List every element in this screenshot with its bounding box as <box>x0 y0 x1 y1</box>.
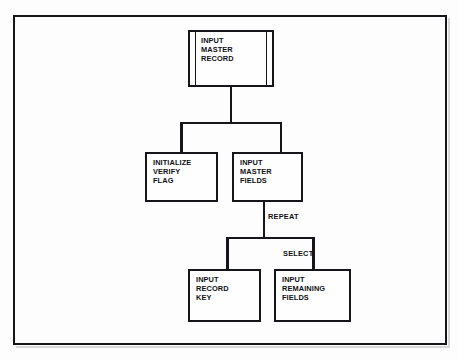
node-input-master-record[interactable]: INPUT MASTER RECORD <box>188 30 274 87</box>
node-input-master-fields[interactable]: INPUT MASTER FIELDS <box>232 152 303 202</box>
connector-root-stem <box>230 87 233 123</box>
diagram-page: REPEAT SELECT INPUT MASTER RECORD INITIA… <box>0 0 459 360</box>
node-inner-rule-left-icon <box>195 32 196 85</box>
edge-label-select: SELECT <box>283 249 313 258</box>
node-input-remaining-fields[interactable]: INPUT REMAINING FIELDS <box>274 269 351 322</box>
connector-to-initialize-verify-flag <box>180 122 183 153</box>
node-label-input-record-key: INPUT RECORD KEY <box>196 275 229 303</box>
node-label-input-remaining-fields: INPUT REMAINING FIELDS <box>282 275 325 303</box>
node-input-record-key[interactable]: INPUT RECORD KEY <box>188 269 261 322</box>
connector-repeat-stem <box>263 202 266 238</box>
connector-level2-bus <box>180 122 282 125</box>
node-inner-rule-right-icon <box>266 32 267 85</box>
connector-to-input-record-key <box>226 237 229 270</box>
node-label-input-master-record: INPUT MASTER RECORD <box>201 36 234 64</box>
connector-level3-bus <box>226 237 315 240</box>
edge-label-repeat: REPEAT <box>268 212 299 221</box>
connector-to-input-master-fields <box>280 122 283 153</box>
node-label-input-master-fields: INPUT MASTER FIELDS <box>240 158 272 186</box>
structure-chart-canvas: REPEAT SELECT INPUT MASTER RECORD INITIA… <box>0 0 459 360</box>
node-initialize-verify-flag[interactable]: INITIALIZE VERIFY FLAG <box>145 152 218 202</box>
node-label-initialize-verify-flag: INITIALIZE VERIFY FLAG <box>153 158 191 186</box>
